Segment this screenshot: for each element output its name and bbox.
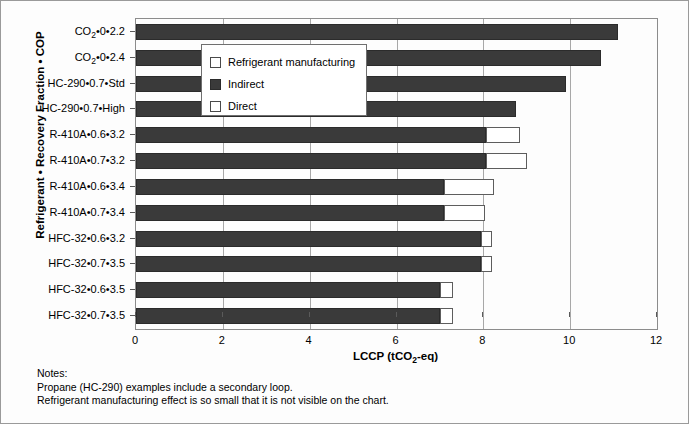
legend-item-direct: Direct: [210, 95, 358, 117]
legend-swatch-white-square-direct: [210, 101, 221, 112]
y-tick-mark-4: [130, 134, 135, 135]
y-tick-mark-10: [130, 289, 135, 290]
bar-segment-direct: [486, 127, 521, 143]
notes-heading: Notes:: [37, 367, 389, 381]
legend-label-direct: Direct: [228, 100, 257, 112]
bar-segment-direct: [440, 308, 453, 324]
x-tick-mark-12: [656, 312, 657, 317]
bar-segment-indirect: [136, 205, 444, 221]
y-axis-label-7: R-410A•0.7•3.4: [49, 206, 125, 218]
x-tick-label-10: 10: [549, 334, 589, 346]
bar-row: [136, 308, 657, 324]
y-axis-title: Refrigerant • Recovery Fraction • COP: [34, 20, 46, 250]
legend-swatch-dark-square-indirect: [210, 79, 221, 90]
x-tick-label-12: 12: [636, 334, 676, 346]
x-tick-label-8: 8: [462, 334, 502, 346]
y-axis-label-3: HC-290•0.7•High: [41, 102, 125, 114]
y-tick-mark-6: [130, 186, 135, 187]
y-axis-label-9: HFC-32•0.7•3.5: [48, 257, 125, 269]
y-tick-mark-9: [130, 263, 135, 264]
x-tick-mark-4: [309, 312, 310, 317]
x-tick-mark-6: [396, 312, 397, 317]
y-tick-mark-3: [130, 108, 135, 109]
y-axis-label-8: HFC-32•0.6•3.2: [48, 232, 125, 244]
bar-segment-direct: [444, 179, 494, 195]
y-axis-label-2: HC-290•0.7•Std: [48, 77, 125, 89]
bar-row: [136, 127, 657, 143]
chart-figure: Refrigerant • Recovery Fraction • COP Re…: [0, 0, 689, 424]
plot-area: Refrigerant manufacturing Indirect Direc…: [135, 18, 658, 330]
bar-row: [136, 24, 657, 40]
y-axis-label-6: R-410A•0.6•3.4: [49, 180, 125, 192]
bar-segment-direct: [481, 231, 492, 247]
notes-block: Notes: Propane (HC-290) examples include…: [37, 367, 389, 408]
x-tick-label-6: 6: [376, 334, 416, 346]
bar-segment-direct: [481, 256, 492, 272]
bar-segment-indirect: [136, 256, 481, 272]
legend-swatch-white-square-manufacturing: [210, 57, 221, 68]
y-axis-label-1: CO2•0•2.4: [75, 51, 125, 67]
y-axis-label-11: HFC-32•0.7•3.5: [48, 309, 125, 321]
notes-line-1: Propane (HC-290) examples include a seco…: [37, 381, 389, 395]
bar-segment-indirect: [136, 282, 440, 298]
legend-item-indirect: Indirect: [210, 73, 358, 95]
bar-segment-indirect: [136, 308, 440, 324]
y-tick-mark-7: [130, 212, 135, 213]
x-tick-mark-10: [569, 312, 570, 317]
x-tick-label-0: 0: [115, 334, 155, 346]
y-tick-mark-1: [130, 57, 135, 58]
bar-row: [136, 205, 657, 221]
bar-row: [136, 282, 657, 298]
x-axis-title: LCCP (tCO2-eq): [135, 350, 656, 365]
bar-segment-direct: [486, 153, 527, 169]
x-tick-mark-0: [135, 312, 136, 317]
bar-row: [136, 179, 657, 195]
bar-segment-indirect: [136, 153, 486, 169]
bar-segment-direct: [440, 282, 453, 298]
bar-row: [136, 256, 657, 272]
y-axis-label-5: R-410A•0.7•3.2: [49, 154, 125, 166]
notes-line-2: Refrigerant manufacturing effect is so s…: [37, 394, 389, 408]
y-tick-mark-5: [130, 160, 135, 161]
bar-segment-indirect: [136, 127, 486, 143]
bar-segment-direct: [444, 205, 485, 221]
x-tick-label-2: 2: [202, 334, 242, 346]
y-tick-mark-0: [130, 31, 135, 32]
legend-label-refrigerant-manufacturing: Refrigerant manufacturing: [228, 56, 355, 68]
bar-segment-indirect: [136, 231, 481, 247]
x-tick-label-4: 4: [289, 334, 329, 346]
y-tick-mark-8: [130, 238, 135, 239]
y-tick-mark-2: [130, 83, 135, 84]
legend-item-refrigerant-manufacturing: Refrigerant manufacturing: [210, 51, 358, 73]
bar-segment-indirect: [136, 24, 618, 40]
chart-legend: Refrigerant manufacturing Indirect Direc…: [201, 44, 367, 116]
x-axis-title-suffix: -eq): [417, 350, 438, 362]
bar-segment-indirect: [136, 179, 444, 195]
x-tick-mark-2: [222, 312, 223, 317]
x-tick-mark-8: [482, 312, 483, 317]
x-axis-title-prefix: LCCP (tCO: [353, 350, 412, 362]
y-axis-label-4: R-410A•0.6•3.2: [49, 128, 125, 140]
y-axis-label-0: CO2•0•2.2: [75, 25, 125, 41]
bar-row: [136, 231, 657, 247]
legend-label-indirect: Indirect: [228, 78, 264, 90]
y-axis-label-10: HFC-32•0.6•3.5: [48, 283, 125, 295]
bar-row: [136, 153, 657, 169]
